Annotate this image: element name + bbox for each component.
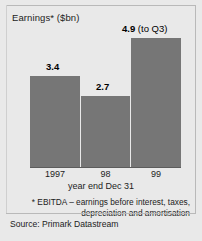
bar-value-99-annotation: (to Q3) — [138, 23, 168, 34]
chart-footnote: * EBITDA – earnings before interest, tax… — [18, 197, 190, 218]
x-axis-title: year end Dec 31 — [0, 181, 202, 191]
bar-1997 — [30, 76, 80, 167]
tick-label-99: 99 — [131, 169, 181, 179]
bar-separator-2 — [130, 38, 131, 167]
bar-98 — [81, 96, 130, 167]
bar-value-99: 4.9 (to Q3) — [122, 23, 167, 34]
footnote-line-1: * EBITDA – earnings before interest, tax… — [18, 197, 190, 208]
bar-separator-1 — [80, 96, 81, 167]
bar-value-98: 2.7 — [96, 81, 109, 92]
bar-99 — [131, 38, 181, 167]
source-separator-rule — [6, 213, 196, 214]
bar-value-98-number: 2.7 — [96, 81, 109, 92]
tick-label-1997: 1997 — [30, 169, 80, 179]
bar-value-1997-number: 3.4 — [46, 61, 59, 72]
bar-value-99-number: 4.9 — [122, 23, 135, 34]
axis-baseline — [30, 167, 181, 168]
source-credit: Source: Primark Datastream — [10, 219, 118, 229]
earnings-bar-chart-figure: Earnings* ($bn) 3.4 2.7 4.9 (to Q3) 1997… — [0, 0, 202, 241]
tick-label-98: 98 — [81, 169, 130, 179]
bar-value-1997: 3.4 — [46, 61, 59, 72]
